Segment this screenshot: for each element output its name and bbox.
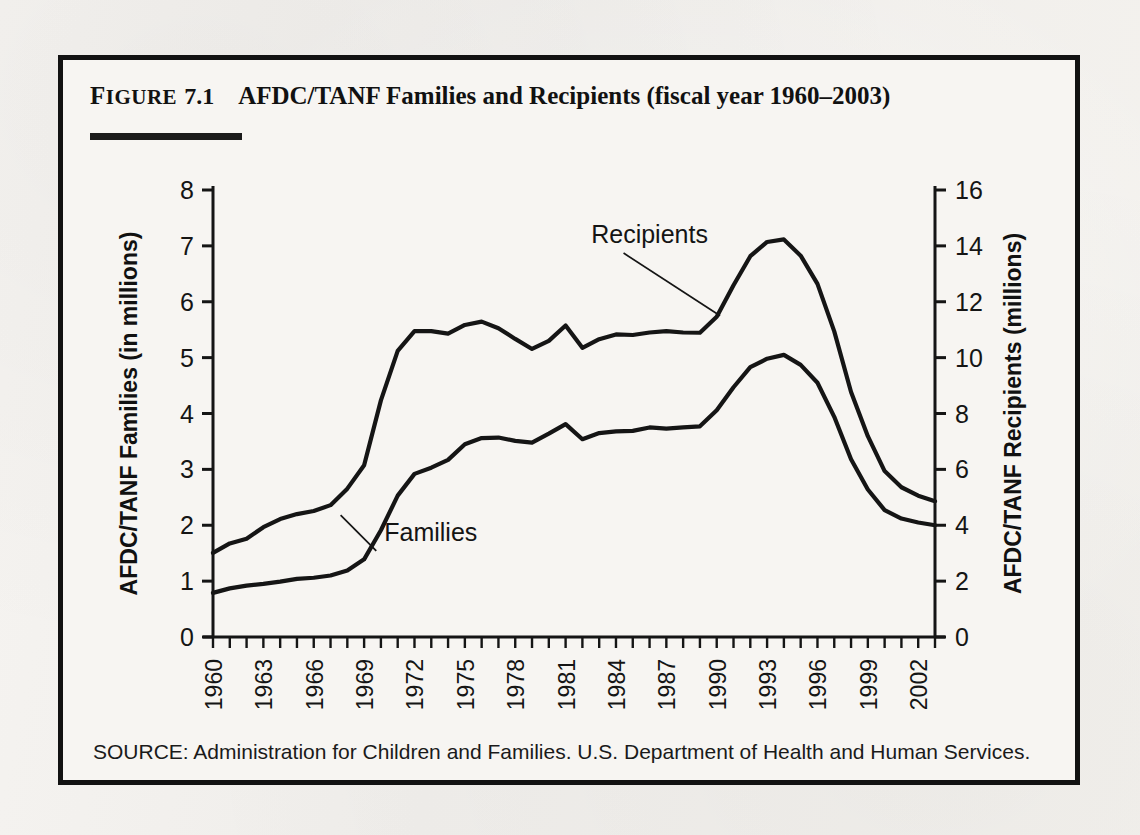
x-axis-tick-label: 1978 <box>503 659 529 710</box>
y-axis-right-title: AFDC/TANF Recipients (millions) <box>1000 233 1026 594</box>
y-axis-left-tick-label: 0 <box>180 623 194 651</box>
x-axis-tick-label: 1966 <box>302 659 328 710</box>
y-axis-right-tick-label: 2 <box>955 567 969 595</box>
annotation-leader-line <box>341 515 377 551</box>
series-annotation-recipients: Recipients <box>591 220 708 248</box>
x-axis-tick-label: 1975 <box>453 659 479 710</box>
y-axis-left-tick-label: 7 <box>180 232 194 260</box>
y-axis-left-tick-label: 6 <box>180 288 194 316</box>
line-chart-icon: 0123456780246810121416196019631966196919… <box>63 60 1075 780</box>
y-axis-left-tick-label: 2 <box>180 511 194 539</box>
x-axis-tick-label: 1984 <box>604 659 630 710</box>
chart-plot-area: 0123456780246810121416196019631966196919… <box>63 60 1075 780</box>
y-axis-left-title: AFDC/TANF Families (in millions) <box>116 232 142 596</box>
y-axis-left-tick-label: 3 <box>180 455 194 483</box>
y-axis-left-tick-label: 4 <box>180 400 194 428</box>
x-axis-tick-label: 1960 <box>201 659 227 710</box>
y-axis-right-tick-label: 4 <box>955 511 969 539</box>
x-axis-tick-label: 1996 <box>805 659 831 710</box>
x-axis-tick-label: 1993 <box>755 659 781 710</box>
x-axis-tick-label: 1963 <box>251 659 277 710</box>
annotation-leader-line <box>624 253 721 316</box>
figure-page: FIGURE7.1AFDC/TANF Families and Recipien… <box>0 0 1140 835</box>
series-line-recipients <box>213 239 935 552</box>
x-axis-tick-label: 1981 <box>554 659 580 710</box>
x-axis-tick-label: 1999 <box>856 659 882 710</box>
y-axis-left-tick-label: 8 <box>180 176 194 204</box>
x-axis-tick-label: 1990 <box>705 659 731 710</box>
y-axis-left-tick-label: 1 <box>180 567 194 595</box>
y-axis-right-tick-label: 6 <box>955 455 969 483</box>
y-axis-left-tick-label: 5 <box>180 344 194 372</box>
x-axis-tick-label: 2002 <box>906 659 932 710</box>
source-note: SOURCE: Administration for Children and … <box>93 740 1030 764</box>
y-axis-right-tick-label: 16 <box>955 176 983 204</box>
y-axis-right-tick-label: 14 <box>955 232 983 260</box>
figure-box: FIGURE7.1AFDC/TANF Families and Recipien… <box>58 55 1080 785</box>
x-axis-tick-label: 1987 <box>654 659 680 710</box>
series-annotation-families: Families <box>384 518 477 546</box>
y-axis-right-tick-label: 0 <box>955 623 969 651</box>
y-axis-right-tick-label: 12 <box>955 288 983 316</box>
y-axis-right-tick-label: 10 <box>955 344 983 372</box>
x-axis-tick-label: 1969 <box>352 659 378 710</box>
series-line-families <box>213 355 935 593</box>
x-axis-tick-label: 1972 <box>402 659 428 710</box>
y-axis-right-tick-label: 8 <box>955 400 969 428</box>
